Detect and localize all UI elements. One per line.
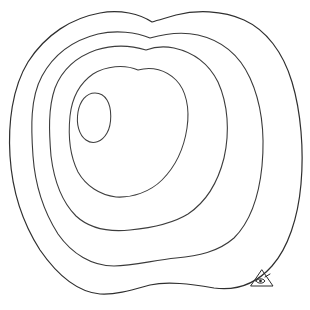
drawing-background — [0, 0, 310, 310]
contour-drawing — [0, 0, 310, 310]
artwork-canvas: Nested Concentric Contour Sketch Hand-dr… — [0, 0, 310, 310]
signature-pupil-icon — [259, 280, 262, 283]
